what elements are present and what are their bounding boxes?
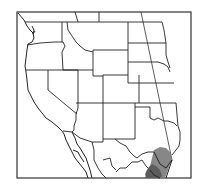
map-canvas: [0, 0, 197, 193]
range-map: [0, 0, 197, 193]
